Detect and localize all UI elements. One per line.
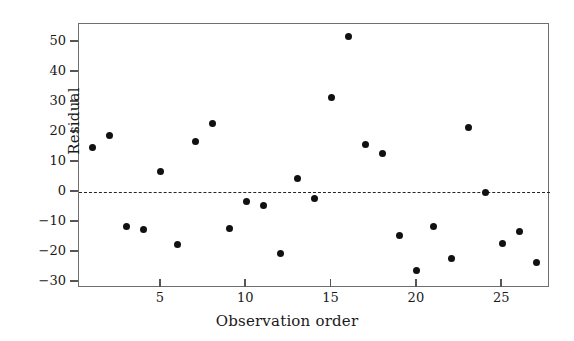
- data-point: [140, 226, 147, 233]
- x-axis-tick-mark: [415, 279, 417, 287]
- y-axis-tick-mark: [70, 250, 78, 252]
- data-point: [174, 241, 181, 248]
- x-axis-tick-label: 20: [396, 290, 436, 305]
- data-point: [106, 132, 113, 139]
- y-axis-tick-label: 30: [49, 91, 66, 110]
- data-point: [499, 240, 506, 247]
- data-point: [465, 124, 472, 131]
- residual-scatter-chart: −30−20−1001020304050 510152025 Residual …: [0, 0, 574, 341]
- x-axis-tick-label: 5: [140, 290, 180, 305]
- data-point: [209, 120, 216, 127]
- data-point: [379, 150, 386, 157]
- y-axis-tick-mark: [70, 220, 78, 222]
- y-axis-tick-label: −10: [39, 211, 66, 230]
- data-point: [362, 141, 369, 148]
- y-axis-tick-label: 20: [49, 121, 66, 140]
- data-point: [123, 223, 130, 230]
- y-axis-tick-label: 50: [49, 31, 66, 50]
- data-point: [448, 255, 455, 262]
- data-point: [192, 138, 199, 145]
- x-axis-tick-label: 25: [481, 290, 521, 305]
- data-point: [277, 250, 284, 257]
- data-point: [328, 94, 335, 101]
- data-point: [157, 168, 164, 175]
- data-point: [89, 144, 96, 151]
- data-point: [413, 267, 420, 274]
- data-point: [311, 195, 318, 202]
- y-axis-title: Residual: [65, 41, 83, 201]
- data-point: [533, 259, 540, 266]
- x-axis-tick-label: 15: [311, 290, 351, 305]
- data-point: [482, 189, 489, 196]
- y-axis-tick-label: −20: [39, 241, 66, 260]
- data-point: [260, 202, 267, 209]
- y-axis-tick-label: 10: [49, 151, 66, 170]
- x-axis-title: Observation order: [0, 312, 574, 330]
- y-axis-tick-label: 40: [49, 61, 66, 80]
- data-point: [516, 228, 523, 235]
- x-axis-tick-mark: [500, 279, 502, 287]
- data-point: [345, 33, 352, 40]
- data-point: [430, 223, 437, 230]
- x-axis-tick-mark: [330, 279, 332, 287]
- plot-area: [78, 23, 549, 287]
- y-axis-tick-label: −30: [39, 271, 66, 290]
- data-point: [243, 198, 250, 205]
- x-axis-tick-mark: [159, 279, 161, 287]
- y-axis-tick-mark: [70, 280, 78, 282]
- x-axis-tick-label: 10: [225, 290, 265, 305]
- zero-reference-line: [79, 192, 550, 193]
- data-point: [396, 232, 403, 239]
- x-axis-tick-mark: [244, 279, 246, 287]
- data-point: [226, 225, 233, 232]
- data-point: [294, 175, 301, 182]
